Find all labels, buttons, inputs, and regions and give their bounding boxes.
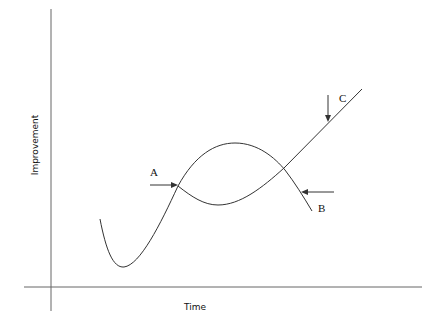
improvement-time-diagram: Improvement Time A B C [0, 0, 447, 322]
curve-b [100, 143, 312, 267]
arrow-b [301, 189, 334, 195]
label-c: C [339, 92, 346, 104]
arrow-c [325, 95, 331, 122]
y-axis-label: Improvement [30, 114, 40, 175]
curve-c [178, 89, 362, 205]
arrow-a [150, 182, 178, 188]
label-a: A [150, 166, 158, 178]
label-b: B [318, 202, 325, 214]
x-axis-label: Time [183, 302, 206, 312]
